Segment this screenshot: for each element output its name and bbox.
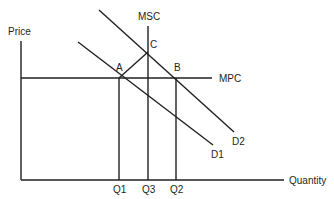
- d1-line: [78, 42, 213, 145]
- q2-label: Q2: [170, 184, 184, 195]
- q1-label: Q1: [113, 184, 127, 195]
- segment-a-c: [119, 52, 148, 78]
- point-c-label: C: [150, 39, 157, 50]
- q3-label: Q3: [142, 184, 156, 195]
- price-axis-label: Price: [8, 26, 31, 37]
- externality-diagram: Price Quantity MPC MSC D1 D2 A B C Q1 Q3…: [0, 0, 334, 199]
- d2-label: D2: [232, 136, 245, 147]
- d1-label: D1: [211, 149, 224, 160]
- point-b-label: B: [174, 62, 181, 73]
- point-a-label: A: [116, 62, 123, 73]
- msc-label: MSC: [138, 11, 160, 22]
- quantity-axis-label: Quantity: [289, 175, 326, 186]
- mpc-label: MPC: [219, 73, 241, 84]
